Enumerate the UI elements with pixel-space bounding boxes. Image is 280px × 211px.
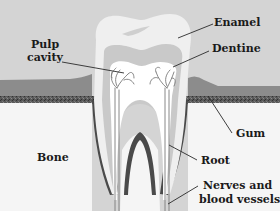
gum-edge-left	[0, 96, 95, 104]
label-pulp-cavity-1: Pulp	[31, 38, 59, 51]
label-pulp-cavity-2: cavity	[27, 51, 63, 64]
label-bone: Bone	[37, 151, 69, 164]
label-root: Root	[201, 154, 231, 167]
label-dentine: Dentine	[212, 42, 261, 55]
label-enamel: Enamel	[214, 16, 260, 29]
tooth-diagram: Pulp cavity Enamel Dentine Gum Bone Root…	[0, 0, 280, 211]
label-nerves-1: Nerves and	[203, 179, 272, 192]
tooth-diagram-svg: Pulp cavity Enamel Dentine Gum Bone Root…	[0, 0, 280, 211]
label-nerves-2: blood vessels	[199, 193, 280, 206]
gum-edge-right	[186, 96, 280, 104]
label-gum: Gum	[236, 127, 265, 140]
